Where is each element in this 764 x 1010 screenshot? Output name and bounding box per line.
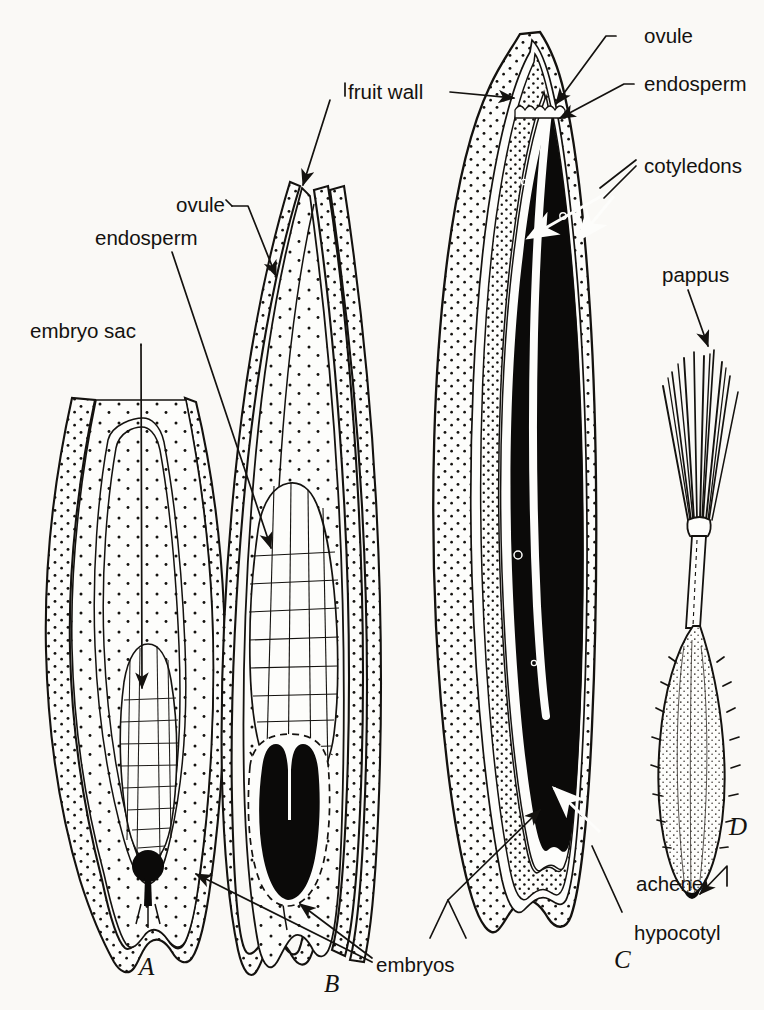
panel-label-b: B <box>324 970 339 997</box>
panel-a-endosperm-mass <box>120 644 178 861</box>
label-ovule-left: ovule <box>176 193 225 216</box>
label-endosperm-left: endosperm <box>95 226 198 249</box>
diagram-canvas: embryo sac endosperm ovule fruit wall ov… <box>0 0 764 1010</box>
label-embryo-sac: embryo sac <box>30 319 136 342</box>
panel-a-embryo-sac-leader <box>141 345 142 688</box>
label-fruit-wall: fruit wall <box>348 80 423 103</box>
label-hypocotyl: hypocotyl <box>634 921 721 944</box>
botanical-figure: embryo sac endosperm ovule fruit wall ov… <box>0 0 764 1010</box>
label-achene: achene <box>636 872 703 895</box>
label-endosperm-right: endosperm <box>644 72 747 95</box>
label-embryos: embryos <box>376 953 455 976</box>
label-cotyledons: cotyledons <box>644 154 742 177</box>
label-pappus: pappus <box>662 263 729 286</box>
panel-label-c: C <box>614 946 631 973</box>
label-ovule-right: ovule <box>644 24 693 47</box>
panel-c-apex-cells <box>515 106 565 118</box>
panel-label-d: D <box>728 813 747 840</box>
panel-label-a: A <box>137 953 155 980</box>
